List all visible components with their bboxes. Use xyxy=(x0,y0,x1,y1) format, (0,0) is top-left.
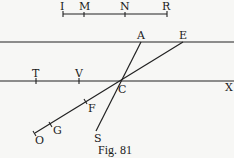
label-F: F xyxy=(88,102,96,115)
line-EO xyxy=(35,42,183,133)
label-N: N xyxy=(120,0,130,13)
label-T: T xyxy=(32,67,40,80)
label-O: O xyxy=(35,134,44,147)
geometric-figure: I M N R A E T V C X F G O S Fig. 81 xyxy=(0,0,234,158)
figure-caption: Fig. 81 xyxy=(98,143,132,157)
label-E: E xyxy=(179,29,187,42)
label-V: V xyxy=(74,67,84,80)
label-R: R xyxy=(162,0,171,13)
label-M: M xyxy=(79,0,90,13)
label-I: I xyxy=(60,0,64,13)
scale-bar: I M N R xyxy=(60,0,171,17)
label-G: G xyxy=(53,124,62,137)
label-A: A xyxy=(136,29,146,42)
label-C: C xyxy=(118,83,126,96)
label-X: X xyxy=(225,81,233,94)
